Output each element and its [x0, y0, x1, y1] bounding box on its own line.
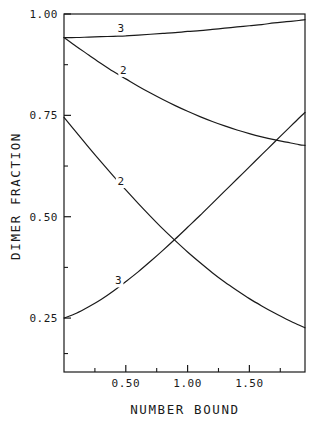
curve-label-2-lower: 2	[118, 175, 125, 188]
data-curves	[64, 20, 305, 328]
x-tick-label: 1.00	[173, 377, 202, 390]
x-tick-label: 0.50	[112, 377, 141, 390]
curve-label-3-lower: 3	[115, 274, 122, 287]
y-tick-label: 0.25	[30, 312, 59, 325]
y-tick-label: 1.00	[30, 8, 59, 21]
curve-labels: 3223	[113, 22, 128, 287]
x-axis-title: NUMBER BOUND	[130, 402, 240, 417]
curve-3	[64, 20, 305, 38]
curve-2-lower	[64, 117, 305, 327]
axis-tick-labels: 0.501.001.500.250.500.751.00	[30, 8, 264, 390]
curve-label-2-upper: 2	[120, 64, 127, 77]
chart-figure: 0.501.001.500.250.500.751.00 3223 NUMBER…	[0, 0, 321, 425]
curve-label-3: 3	[118, 22, 125, 35]
y-tick-label: 0.75	[30, 109, 59, 122]
curve-3-lower	[64, 113, 305, 319]
y-tick-label: 0.50	[30, 211, 59, 224]
x-tick-label: 1.50	[235, 377, 264, 390]
curve-2-upper	[64, 38, 305, 146]
plot-frame	[64, 14, 305, 372]
y-axis-title: DIMER FRACTION	[8, 132, 23, 260]
dimer-fraction-line-chart: 0.501.001.500.250.500.751.00 3223 NUMBER…	[0, 0, 321, 425]
axis-ticks	[64, 14, 280, 372]
